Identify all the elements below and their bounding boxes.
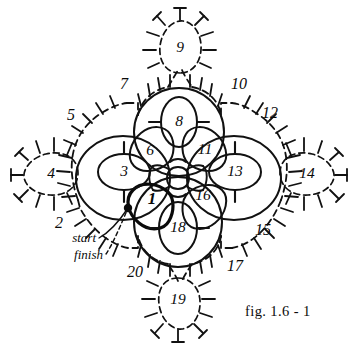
chain-label-10: 10 — [231, 75, 247, 92]
ring-18-label: 18 — [170, 218, 186, 235]
ring-11-label: 11 — [198, 140, 212, 157]
chain-label-12: 12 — [262, 104, 278, 121]
chain-label-17: 17 — [227, 257, 244, 274]
chain-corner-upper-right — [221, 103, 232, 115]
picot-tick — [67, 208, 79, 212]
picot-tick — [72, 126, 83, 133]
start-point-dot — [124, 204, 132, 212]
ring-9: 9 — [143, 8, 216, 73]
picot-tick — [57, 171, 70, 172]
picot-tick — [96, 103, 103, 114]
figure-container: 6 11 16 1 3 13 — [0, 0, 352, 346]
ring-19-label: 19 — [170, 290, 186, 307]
finish-label: finish — [74, 247, 103, 262]
chain-path-12 — [232, 103, 287, 200]
ring-14: 14 — [280, 138, 347, 210]
start-leader-line — [99, 208, 128, 238]
picot-tick — [200, 261, 202, 273]
ring-4-picots — [11, 138, 72, 210]
picot-tick — [158, 78, 160, 90]
chain-path-17 — [192, 236, 221, 264]
start-finish-marker: start finish — [72, 204, 132, 262]
ring-18: 18 — [147, 202, 209, 254]
picot-tick — [75, 219, 86, 226]
ring-6-label: 6 — [146, 141, 154, 158]
chain-path-5 — [72, 103, 127, 200]
picot-tick — [285, 196, 298, 197]
ring-3: 3 — [98, 142, 150, 202]
picot-tick — [83, 114, 92, 123]
picot-tick — [254, 238, 261, 249]
ring-14-label: 14 — [299, 164, 315, 181]
picot-tick — [281, 208, 293, 212]
picot-tick — [148, 84, 150, 96]
chain-label-7: 7 — [120, 75, 129, 92]
chain-label-15: 15 — [255, 221, 271, 238]
ring-8-label: 8 — [175, 112, 183, 129]
figure-caption: fig. 1.6 - 1 — [245, 303, 311, 319]
picot-tick — [283, 140, 295, 145]
ring-13: 13 — [209, 142, 261, 202]
picot-tick — [276, 126, 287, 133]
picot-tick — [113, 244, 118, 256]
ring-14-picots — [286, 138, 347, 210]
ring-16-label: 16 — [195, 186, 211, 203]
picot-tick — [64, 140, 76, 145]
picot-tick — [210, 84, 212, 96]
ring-4: 4 — [11, 138, 78, 210]
chain-label-20: 20 — [127, 263, 143, 280]
picot-tick — [289, 183, 301, 186]
ring-4-label: 4 — [47, 164, 55, 181]
ring-1-label: 1 — [148, 189, 157, 208]
chain-corner-upper-left — [127, 103, 138, 115]
ring-13-label: 13 — [227, 162, 243, 179]
picot-tick — [210, 255, 212, 267]
chain-label-5: 5 — [67, 106, 75, 123]
ring-9-label: 9 — [176, 38, 184, 55]
chain-label-2: 2 — [55, 214, 63, 231]
center-link-top — [170, 159, 186, 162]
ring-19: 19 — [142, 278, 215, 342]
tatting-pattern-diagram: 6 11 16 1 3 13 — [0, 0, 352, 346]
picot-tick — [242, 244, 247, 256]
picot-tick — [274, 219, 285, 226]
ring-3-label: 3 — [119, 162, 128, 179]
picot-tick — [200, 78, 202, 90]
chain-corner-lower-right — [221, 236, 232, 248]
picot-tick — [244, 96, 250, 108]
start-label: start — [72, 230, 96, 245]
picot-tick — [58, 183, 70, 186]
